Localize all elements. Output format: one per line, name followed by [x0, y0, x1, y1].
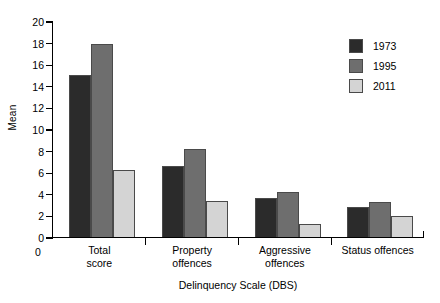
- legend-label: 1995: [373, 60, 396, 72]
- y-axis-tick: [46, 194, 53, 195]
- bar: [391, 216, 413, 238]
- x-axis-category-label-line: offences: [265, 257, 305, 269]
- legend-label: 1973: [373, 40, 396, 52]
- x-axis-category-label-line: Property: [172, 244, 212, 256]
- bar: [69, 75, 91, 238]
- bar: [255, 198, 277, 238]
- x-axis-origin-label: 0: [30, 246, 46, 258]
- x-axis-category-label: Aggressiveoffences: [239, 244, 332, 269]
- x-axis-category-label-line: Status offences: [342, 244, 414, 256]
- bar: [347, 207, 369, 238]
- y-axis-tick-label: 14: [18, 82, 44, 92]
- legend-swatch: [349, 79, 363, 93]
- bar-group: [239, 22, 332, 238]
- y-axis-tick: [46, 151, 53, 152]
- x-axis-title: Delinquency Scale (DBS): [52, 279, 424, 291]
- bar: [91, 44, 113, 238]
- bar: [299, 224, 321, 238]
- y-axis-tick-label: 8: [18, 147, 44, 157]
- x-axis-category-label: Totalscore: [53, 244, 146, 269]
- legend-item: 1995: [349, 56, 396, 76]
- legend: 197319952011: [349, 36, 396, 96]
- y-axis-tick-label: 20: [18, 17, 44, 27]
- y-axis-tick-label: 18: [18, 39, 44, 49]
- legend-swatch: [349, 59, 363, 73]
- x-axis-category-label-line: score: [87, 257, 113, 269]
- legend-item: 2011: [349, 76, 396, 96]
- legend-label: 2011: [373, 80, 396, 92]
- x-axis-category-label: Status offences: [331, 244, 424, 257]
- y-axis-tick: [46, 65, 53, 66]
- y-axis-tick: [46, 86, 53, 87]
- bar: [184, 149, 206, 238]
- y-axis-tick-label: 2: [18, 211, 44, 221]
- x-axis-end-tick: [423, 231, 424, 238]
- y-axis-tick: [46, 173, 53, 174]
- x-axis-category-label-line: Aggressive: [259, 244, 311, 256]
- y-axis-tick-label: 0: [18, 233, 44, 243]
- bar-group: [53, 22, 146, 238]
- y-axis-tick-label: 16: [18, 60, 44, 70]
- x-axis-category-label-line: Total: [88, 244, 110, 256]
- bar: [162, 166, 184, 238]
- y-axis-tick-label: 12: [18, 103, 44, 113]
- y-axis-tick: [46, 21, 53, 22]
- bar: [206, 201, 228, 238]
- x-axis-category-label-line: offences: [172, 257, 212, 269]
- bar-chart: Mean 02468101214161820 0 TotalscorePrope…: [0, 0, 440, 303]
- x-axis-category-label: Propertyoffences: [146, 244, 239, 269]
- y-axis-title: Mean: [7, 88, 18, 148]
- bar-group: [146, 22, 239, 238]
- y-axis-tick-label: 6: [18, 168, 44, 178]
- y-axis-tick: [46, 129, 53, 130]
- bar: [277, 192, 299, 238]
- y-axis-tick-label: 10: [18, 125, 44, 135]
- legend-swatch: [349, 39, 363, 53]
- y-axis-tick: [46, 216, 53, 217]
- y-axis-tick: [46, 108, 53, 109]
- bar: [369, 202, 391, 238]
- y-axis-tick-label: 4: [18, 190, 44, 200]
- legend-item: 1973: [349, 36, 396, 56]
- bar: [113, 170, 135, 238]
- y-axis-tick: [46, 43, 53, 44]
